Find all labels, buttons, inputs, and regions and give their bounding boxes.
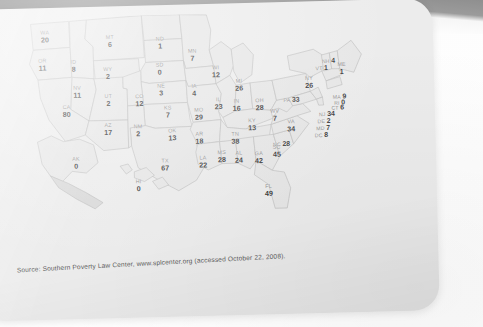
state-label-mt: MT6	[106, 35, 115, 48]
state-label-al: AL24	[235, 151, 243, 164]
state-label-ks: KS7	[164, 105, 172, 118]
state-label-la: LA22	[199, 155, 207, 168]
state-label-ok: OK13	[168, 128, 177, 141]
state-label-or: OR11	[38, 58, 47, 71]
state-label-nd: ND1	[156, 36, 165, 49]
state-label-ia: IA4	[191, 84, 197, 97]
state-label-mo: MO29	[194, 107, 203, 120]
state-label-pa: PA33	[283, 89, 300, 105]
us-map-figure: WA20 OR11 ID8 MT6 ND1 SD0 NE3 KS7 OK13 T…	[24, 9, 425, 249]
state-label-ar: AR18	[195, 132, 203, 145]
state-label-ms: MS28	[218, 150, 227, 163]
state-label-hi: HI0	[136, 179, 142, 192]
state-label-nv: NV11	[73, 86, 81, 99]
state-label-ut: UT2	[105, 94, 113, 107]
state-label-ak: AK0	[72, 157, 80, 170]
state-label-az: AZ17	[104, 123, 112, 136]
state-label-in: IN16	[232, 99, 240, 112]
state-label-mn: MN7	[188, 49, 197, 62]
state-label-me: ME1	[337, 62, 346, 75]
state-label-fl: FL49	[265, 184, 273, 197]
state-label-sd: SD0	[156, 62, 164, 75]
state-label-tx: TX67	[161, 158, 169, 171]
state-label-co: CO12	[135, 94, 144, 107]
state-label-wv: WV7	[270, 109, 279, 122]
printed-page: WA20 OR11 ID8 MT6 ND1 SD0 NE3 KS7 OK13 T…	[0, 0, 440, 322]
state-label-wi: WI12	[212, 65, 220, 78]
state-label-nm: NM2	[134, 124, 143, 137]
us-map-outlines	[24, 9, 425, 249]
state-label-ne: NE3	[157, 83, 165, 96]
state-label-dc: DC8	[314, 124, 328, 140]
state-label-il: IL23	[214, 97, 222, 110]
state-label-id: ID8	[71, 60, 77, 73]
state-label-ca: CA80	[63, 105, 71, 118]
state-label-tn: TN38	[231, 132, 239, 145]
state-label-wa: WA20	[40, 30, 49, 43]
state-label-vt: VT1	[315, 57, 328, 73]
state-label-ky: KY13	[248, 118, 256, 131]
state-label-va: VA34	[287, 119, 295, 132]
state-label-mi: MI26	[235, 78, 243, 91]
state-label-ga: GA42	[255, 151, 264, 164]
state-label-oh: OH28	[255, 98, 264, 111]
figure-source-caption: Source: Southern Poverty Law Center, www…	[17, 249, 347, 274]
state-label-wy: WY2	[103, 67, 112, 80]
state-label-sc: SC45	[273, 145, 281, 158]
state-label-ny: NY26	[305, 76, 313, 89]
